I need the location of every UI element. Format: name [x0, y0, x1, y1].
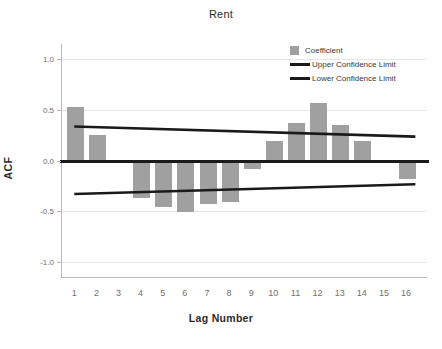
legend-item-3: Lower Confidence Limit [290, 72, 440, 85]
y-tick-label: 1.0 [20, 55, 54, 64]
gridline [62, 262, 427, 263]
y-tick-label: -0.5 [20, 207, 54, 216]
x-tick-label-14: 14 [352, 288, 372, 298]
legend-label: Upper Confidence Limit [312, 60, 396, 69]
x-tick-label-12: 12 [308, 288, 328, 298]
x-tick-label-4: 4 [131, 288, 151, 298]
bar-lag-16 [399, 161, 416, 179]
y-tick-label: 0.0 [20, 156, 54, 165]
chart-legend: CoefficientUpper Confidence LimitLower C… [290, 44, 440, 86]
x-tick-label-11: 11 [285, 288, 305, 298]
gridline [62, 211, 427, 212]
x-axis-title: Lag Number [0, 312, 442, 324]
x-tick-label-9: 9 [241, 288, 261, 298]
x-tick-label-6: 6 [175, 288, 195, 298]
y-axis-title: ACF [2, 157, 14, 180]
x-tick-label-15: 15 [374, 288, 394, 298]
bar-lag-7 [200, 161, 217, 205]
x-tick-label-13: 13 [330, 288, 350, 298]
legend-item-1: Coefficient [290, 44, 440, 57]
bar-lag-12 [310, 103, 327, 161]
bar-lag-11 [288, 123, 305, 160]
x-tick-label-10: 10 [263, 288, 283, 298]
legend-line-swatch-icon [290, 63, 310, 66]
x-tick-label-1: 1 [64, 288, 84, 298]
bar-lag-14 [354, 141, 371, 160]
x-tick-label-5: 5 [153, 288, 173, 298]
bar-lag-4 [133, 161, 150, 198]
legend-item-2: Upper Confidence Limit [290, 58, 440, 71]
x-tick-label-8: 8 [219, 288, 239, 298]
bar-lag-8 [222, 161, 239, 203]
legend-label: Coefficient [305, 46, 343, 55]
y-tick-label: 0.5 [20, 105, 54, 114]
x-tick-label-7: 7 [197, 288, 217, 298]
bar-lag-6 [177, 161, 194, 213]
acf-chart: Rent ACF Lag Number 1.00.50.0-0.5-1.0 12… [0, 0, 442, 349]
y-tick-label: -1.0 [20, 257, 54, 266]
x-tick-label-3: 3 [109, 288, 129, 298]
bar-lag-2 [89, 135, 106, 160]
zero-reference-line [60, 160, 429, 163]
bar-lag-1 [67, 107, 84, 161]
x-tick-label-16: 16 [396, 288, 416, 298]
bar-lag-10 [266, 141, 283, 160]
legend-square-swatch-icon [290, 46, 299, 55]
bar-lag-5 [155, 161, 172, 208]
legend-label: Lower Confidence Limit [312, 74, 396, 83]
chart-title: Rent [0, 8, 442, 20]
legend-line-swatch-icon [290, 77, 310, 80]
gridline [62, 110, 427, 111]
x-tick-label-2: 2 [86, 288, 106, 298]
bar-lag-13 [332, 125, 349, 160]
